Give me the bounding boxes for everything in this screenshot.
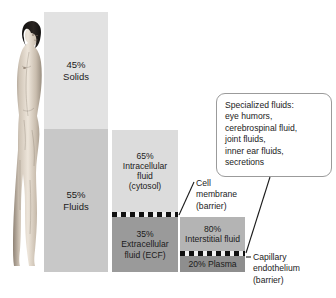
band-fluids: 55% Fluids	[44, 129, 108, 272]
band-fluids-percent: 55%	[66, 189, 85, 200]
column-total-body-composition: 45% Solids 55% Fluids	[44, 12, 108, 272]
specialized-fluids-callout: Specialized fluids: eye humors, cerebros…	[216, 93, 332, 177]
column-fluid-compartments: 65% Intracellular fluid (cytosol) 35% Ex…	[112, 130, 178, 272]
band-icf-label-3: (cytosol)	[129, 181, 161, 191]
band-solids: 45% Solids	[44, 12, 108, 129]
band-fluids-label: Fluids	[63, 201, 88, 212]
label-capillary-line-2: endothelium	[253, 263, 300, 274]
band-interstitial-fluid: 80% Interstitial fluid	[180, 217, 245, 251]
band-ecf-label-1: Extracellular	[121, 239, 168, 249]
cell-membrane-leader-line	[179, 182, 194, 215]
band-extracellular-fluid: 35% Extracellular fluid (ECF)	[112, 217, 178, 272]
callout-line-5: inner ear fluids,	[225, 146, 324, 157]
band-ecf-percent: 35%	[136, 229, 153, 239]
label-capillary-line-1: Capillary	[253, 252, 300, 263]
band-isf-label: Interstitial fluid	[185, 234, 240, 244]
band-plasma: 20% Plasma	[180, 256, 245, 272]
band-intracellular-fluid: 65% Intracellular fluid (cytosol)	[112, 130, 178, 212]
label-cell-membrane: Cell membrane (barrier)	[196, 178, 237, 212]
band-solids-percent: 45%	[66, 59, 85, 70]
band-solids-label: Solids	[63, 71, 89, 82]
callout-line-4: joint fluids,	[225, 134, 324, 145]
label-cell-membrane-line-3: (barrier)	[196, 201, 237, 212]
callout-line-3: cerebrospinal fluid,	[225, 123, 324, 134]
label-capillary-line-3: (barrier)	[253, 275, 300, 286]
band-isf-percent: 80%	[204, 224, 221, 234]
callout-line-2: eye humors,	[225, 111, 324, 122]
label-cell-membrane-line-1: Cell	[196, 178, 237, 189]
band-icf-percent: 65%	[136, 151, 153, 161]
band-plasma-label: 20% Plasma	[188, 259, 236, 269]
body-fluid-compartments-diagram: 45% Solids 55% Fluids 65% Intracellular …	[0, 0, 336, 298]
label-cell-membrane-line-2: membrane	[196, 189, 237, 200]
label-capillary-endothelium: Capillary endothelium (barrier)	[253, 252, 300, 286]
column-ecf-subcompartments: 80% Interstitial fluid 20% Plasma	[180, 217, 245, 272]
band-icf-label-1: Intracellular	[123, 161, 167, 171]
band-ecf-label-2: fluid (ECF)	[124, 250, 165, 260]
callout-line-6: secretions	[225, 157, 324, 168]
band-icf-label-2: fluid	[137, 171, 153, 181]
callout-line-1: Specialized fluids:	[225, 100, 324, 111]
specialized-fluids-leader-line	[246, 177, 270, 253]
